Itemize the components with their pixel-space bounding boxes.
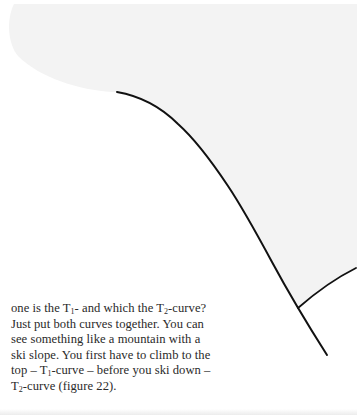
body-paragraph: one is the T1- and which the T2-curve? J… [11,301,241,395]
shaded-region [9,4,357,308]
subscript: 2 [19,385,23,394]
text-line: top – T1-curve – before you ski down – [11,363,241,379]
subscript: 2 [164,307,168,316]
text-line: Just put both curves together. You can [11,317,241,333]
subscript: 1 [70,307,74,316]
page-bottom-edge [0,409,357,415]
text-line: T2-curve (figure 22). [11,379,241,395]
text-line: ski slope. You first have to climb to th… [11,348,241,364]
text-line: one is the T1- and which the T2-curve? [11,301,241,317]
text-line: see something like a mountain with a [11,332,241,348]
subscript: 1 [48,369,52,378]
